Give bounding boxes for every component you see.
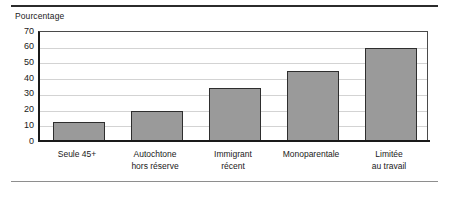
y-tick-label: 0 bbox=[29, 137, 34, 146]
x-tick-label: Limitéeau travail bbox=[341, 149, 437, 172]
top-rule bbox=[11, 5, 438, 7]
y-tick-label: 30 bbox=[24, 89, 34, 98]
x-tick-label-line: au travail bbox=[341, 161, 437, 173]
bar bbox=[365, 48, 417, 141]
bar bbox=[53, 122, 105, 141]
plot-inner bbox=[40, 32, 427, 141]
bar bbox=[131, 111, 183, 141]
x-tick-label-line: récent bbox=[185, 161, 281, 173]
plot-area bbox=[38, 31, 428, 141]
x-axis-line bbox=[38, 140, 430, 142]
bar bbox=[287, 71, 339, 141]
y-tick-label: 50 bbox=[24, 58, 34, 67]
y-tick-label: 20 bbox=[24, 105, 34, 114]
y-tick-label: 10 bbox=[24, 121, 34, 130]
bar bbox=[209, 88, 261, 141]
x-tick-label-line: Limitée bbox=[341, 149, 437, 161]
bottom-rule bbox=[11, 181, 438, 182]
chart-figure: Pourcentage 010203040506070 Seule 45+Aut… bbox=[0, 0, 449, 197]
y-tick-label: 70 bbox=[24, 27, 34, 36]
y-tick-label: 40 bbox=[24, 74, 34, 83]
y-tick-label: 60 bbox=[24, 42, 34, 51]
y-axis-tick-labels: 010203040506070 bbox=[0, 0, 34, 197]
